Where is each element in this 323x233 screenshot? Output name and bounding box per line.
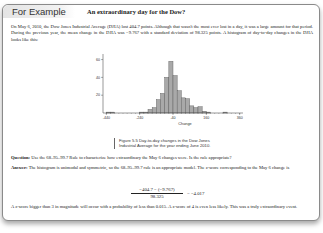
histogram-bar (148, 109, 152, 113)
intro-paragraph: On May 6, 2010, the Dow Jones Industrial… (11, 24, 313, 43)
caption-line-2: Industrial Average for the year ending J… (119, 143, 210, 148)
histogram-bar (190, 106, 194, 113)
answer-label: Answer: (11, 165, 28, 170)
for-example-box: For Example An extraordinary day for the… (2, 4, 320, 221)
histogram-bar (202, 111, 206, 113)
histogram-bar (194, 108, 198, 113)
histogram-bar (177, 91, 181, 113)
histogram-bar (181, 98, 185, 113)
formula-result: = −4.017 (187, 190, 204, 197)
z-score-formula: −404.7 − (−9.767) 98.325 = −4.017 (3, 186, 319, 202)
svg-text:Change: Change (178, 122, 191, 126)
histogram-bar (165, 77, 169, 113)
histogram-bar (173, 76, 177, 113)
example-title: An extraordinary day for the Dow? (87, 6, 185, 18)
question-label: Question: (11, 155, 30, 160)
answer-paragraph: Answer: The histogram is unimodal and sy… (11, 165, 313, 171)
histogram-bar (169, 61, 173, 113)
svg-text:-40: -40 (170, 116, 175, 120)
example-header: For Example An extraordinary day for the… (3, 5, 319, 19)
histogram-bar (161, 93, 165, 113)
histogram-bar (152, 108, 156, 113)
formula-denominator: 98.325 (131, 193, 183, 200)
question-text: Use the 68–95–99.7 Rule to characterize … (30, 155, 231, 160)
svg-text:40: 40 (96, 76, 100, 80)
histogram-bar (156, 100, 160, 113)
histogram-bar (198, 107, 202, 113)
question-paragraph: Question: Use the 68–95–99.7 Rule to cha… (11, 155, 313, 161)
histogram-chart: 204060-440-240-40160360Change (83, 51, 253, 131)
svg-text:-440: -440 (103, 116, 110, 120)
svg-text:160: 160 (203, 116, 209, 120)
for-example-tag: For Example (3, 5, 75, 18)
svg-text:60: 60 (96, 58, 100, 62)
histogram-bar (186, 99, 190, 113)
answer-text: The histogram is unimodal and symmetric,… (28, 165, 290, 170)
svg-text:20: 20 (96, 93, 100, 97)
svg-text:-240: -240 (136, 116, 143, 120)
svg-text:360: 360 (237, 116, 243, 120)
conclusion-paragraph: A z-score bigger than 3 in magnitude wil… (11, 204, 313, 210)
figure-caption: Figure 5.5 Day-to-day changes in the Dow… (114, 138, 210, 149)
